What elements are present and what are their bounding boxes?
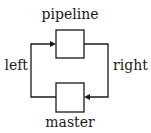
node-master-label: master (45, 114, 95, 130)
edge-right-label: right (113, 57, 148, 73)
node-pipeline-box (56, 30, 84, 58)
edge-left-label: left (4, 57, 28, 73)
arrow-into-master-icon (84, 94, 90, 100)
loop-diagram: pipeline master left right (0, 0, 151, 133)
edge-right (84, 44, 108, 97)
node-master-box (56, 83, 84, 112)
arrow-into-pipeline-icon (50, 41, 56, 47)
edge-left (31, 44, 56, 97)
node-pipeline-label: pipeline (42, 6, 99, 22)
